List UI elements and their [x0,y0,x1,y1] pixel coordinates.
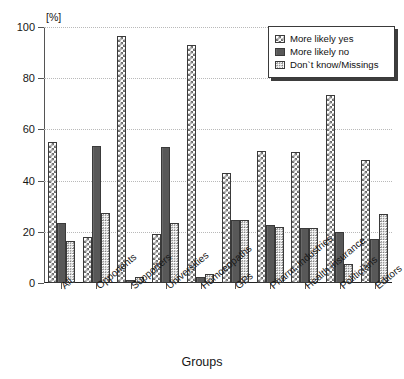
y-axis-tick-label: 80 [23,72,35,84]
bar [117,36,126,283]
legend-label-dontknow: Don`t know/Missings [290,58,379,71]
y-axis-tick-label: 20 [23,226,35,238]
bar-group [183,27,218,283]
bar-chart: [%] 020406080100 AllOpponentsSupportersU… [0,0,404,379]
bar [326,95,335,283]
bar [266,225,275,283]
legend-swatch-no-icon [275,48,285,56]
bar [57,223,66,283]
y-axis-unit-label: [%] [46,11,61,23]
legend-swatch-yes-icon [275,35,285,43]
legend-swatch-dontknow-icon [275,61,285,69]
bar-group [44,27,79,283]
bar [83,237,92,283]
legend-item-more-likely-yes: More likely yes [275,32,388,45]
legend-label-yes: More likely yes [290,32,353,45]
y-axis-tick-label: 40 [23,175,35,187]
x-axis-title: Groups [0,355,404,369]
bar [48,142,57,283]
bar-group [148,27,183,283]
bar [257,151,266,283]
bar-group [79,27,114,283]
y-axis-tick-label: 0 [29,277,35,289]
chart-legend: More likely yes More likely no Don`t kno… [268,26,395,78]
bar [187,45,196,283]
legend-item-more-likely-no: More likely no [275,45,388,58]
bar [92,146,101,283]
legend-item-dont-know: Don`t know/Missings [275,58,388,71]
y-axis-tick-label: 100 [17,21,35,33]
bar-group [114,27,149,283]
legend-label-no: More likely no [290,45,349,58]
y-axis-tick-label: 60 [23,123,35,135]
